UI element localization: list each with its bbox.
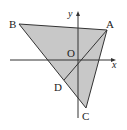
y-axis-arrow-icon [76,11,80,16]
diagram-container: B A C D O x y [0,0,127,130]
label-c: C [82,110,89,122]
geometry-figure: B A C D O x y [0,0,127,130]
label-a: A [106,18,114,30]
label-y-axis: y [67,8,73,19]
label-b: B [9,18,16,30]
label-origin: O [67,47,75,59]
label-d: D [54,81,62,93]
label-x-axis: x [111,59,117,70]
triangle-abc [19,24,107,108]
